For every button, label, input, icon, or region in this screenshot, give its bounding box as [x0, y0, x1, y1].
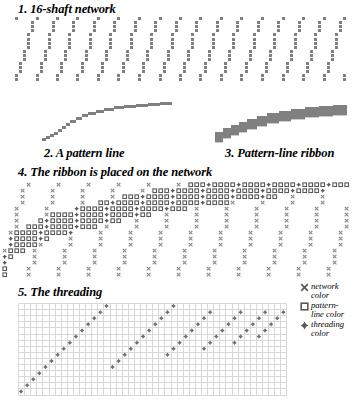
panel-caption-placed: 4. The ribbon is placed on the network [18, 165, 212, 180]
x-mark-icon [299, 282, 310, 293]
diamond-icon [299, 320, 310, 331]
legend-label-network: network color [310, 282, 339, 300]
pattern-line-ribbon-diagram [215, 98, 355, 146]
legend-item-pattern-line-color: pattern- line color [299, 301, 356, 319]
figure-root: 1. 16-shaft network 2. A pattern line 3.… [0, 0, 356, 400]
legend: network color pattern- line color thread… [299, 282, 356, 339]
legend-label-pattern-line: pattern- line color [310, 301, 344, 319]
panel-caption-network: 1. 16-shaft network [18, 2, 116, 17]
legend-threading-line2: color [311, 328, 329, 338]
legend-item-network-color: network color [299, 282, 356, 300]
network-diagram [15, 17, 349, 95]
legend-pattern-line2: line color [311, 309, 344, 319]
open-square-icon [299, 301, 310, 312]
panel-caption-ribbon: 3. Pattern-line ribbon [225, 146, 334, 161]
threading-diagram [18, 303, 288, 397]
ribbon-on-network-diagram [2, 182, 354, 280]
panel-caption-threading: 5. The threading [18, 285, 102, 300]
legend-label-threading: threading color [310, 320, 344, 338]
legend-item-threading-color: threading color [299, 320, 356, 338]
panel-caption-pattern-line: 2. A pattern line [44, 146, 125, 161]
legend-network-line2: color [311, 290, 329, 300]
pattern-line-diagram [42, 98, 190, 146]
